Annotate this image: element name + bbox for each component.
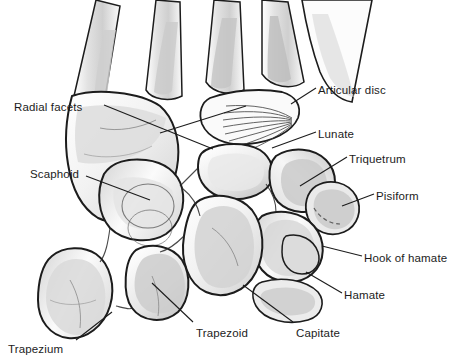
bone-shading-layer	[38, 0, 372, 338]
distal-fragments	[253, 279, 322, 322]
capitate	[183, 196, 262, 295]
label-articular-disc: Articular disc	[318, 84, 386, 97]
trapezium	[38, 248, 112, 338]
scaphoid	[99, 160, 183, 246]
leader-hook-of-hamate	[322, 246, 362, 256]
leader-articular-disc	[291, 88, 316, 104]
label-trapezium: Trapezium	[8, 343, 63, 356]
metacarpal-4	[262, 0, 304, 87]
anatomical-artwork	[0, 0, 453, 364]
metacarpal-3	[206, 0, 244, 93]
label-triquetrum: Triquetrum	[349, 153, 406, 166]
label-hook-of-hamate: Hook of hamate	[364, 252, 447, 265]
label-lunate: Lunate	[318, 128, 354, 141]
lunate	[198, 144, 273, 199]
label-hamate: Hamate	[344, 289, 385, 302]
carpal-bones-figure: Radial facetsScaphoidTrapeziumTrapezoidC…	[0, 0, 453, 364]
articular-disc	[200, 90, 299, 152]
metacarpal-2	[146, 0, 182, 99]
metacarpal-1	[74, 0, 120, 106]
label-radial-facets: Radial facets	[14, 101, 82, 114]
label-pisiform: Pisiform	[376, 190, 419, 203]
label-scaphoid: Scaphoid	[30, 168, 79, 181]
label-trapezoid: Trapezoid	[196, 327, 248, 340]
label-capitate: Capitate	[296, 327, 340, 340]
